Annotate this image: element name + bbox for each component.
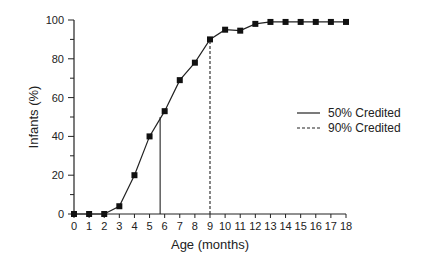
data-point-marker bbox=[298, 19, 304, 25]
y-axis-title: Infants (%) bbox=[26, 86, 41, 149]
x-tick-label: 13 bbox=[264, 220, 276, 232]
x-tick-label: 10 bbox=[219, 220, 231, 232]
y-tick-label: 60 bbox=[52, 92, 64, 104]
legend-solid-label: 50% Credited bbox=[328, 106, 401, 120]
data-point-marker bbox=[283, 19, 289, 25]
x-tick-label: 12 bbox=[249, 220, 261, 232]
data-point-marker bbox=[328, 19, 334, 25]
x-tick-label: 5 bbox=[146, 220, 152, 232]
data-point-marker bbox=[101, 211, 107, 217]
x-tick-label: 3 bbox=[116, 220, 122, 232]
x-tick-label: 8 bbox=[192, 220, 198, 232]
data-point-marker bbox=[147, 133, 153, 139]
data-point-marker bbox=[116, 203, 122, 209]
data-point-marker bbox=[192, 60, 198, 66]
x-tick-label: 14 bbox=[279, 220, 291, 232]
x-tick-label: 4 bbox=[131, 220, 137, 232]
data-point-marker bbox=[86, 211, 92, 217]
x-tick-label: 1 bbox=[86, 220, 92, 232]
x-axis-title: Age (months) bbox=[171, 237, 249, 252]
y-tick-label: 40 bbox=[52, 130, 64, 142]
data-point-marker bbox=[343, 19, 349, 25]
x-tick-label: 15 bbox=[295, 220, 307, 232]
data-point-marker bbox=[267, 19, 273, 25]
x-tick-label: 0 bbox=[71, 220, 77, 232]
y-tick-label: 0 bbox=[58, 208, 64, 220]
data-point-marker bbox=[177, 77, 183, 83]
data-point-marker bbox=[207, 36, 213, 42]
x-tick-label: 17 bbox=[325, 220, 337, 232]
data-point-marker bbox=[131, 172, 137, 178]
x-tick-label: 18 bbox=[340, 220, 352, 232]
data-point-marker bbox=[252, 21, 258, 27]
data-point-marker bbox=[162, 108, 168, 114]
y-tick-label: 100 bbox=[46, 14, 64, 26]
y-tick-label: 20 bbox=[52, 169, 64, 181]
data-point-marker bbox=[237, 28, 243, 34]
data-point-marker bbox=[222, 27, 228, 33]
x-tick-label: 7 bbox=[177, 220, 183, 232]
y-tick-label: 80 bbox=[52, 53, 64, 65]
line-chart: 0204060801000123456789101112131415161718… bbox=[0, 0, 430, 268]
legend: 50% Credited 90% Credited bbox=[297, 106, 401, 135]
x-tick-label: 16 bbox=[310, 220, 322, 232]
x-tick-label: 11 bbox=[235, 220, 246, 232]
x-tick-label: 2 bbox=[101, 220, 107, 232]
x-tick-label: 9 bbox=[207, 220, 213, 232]
data-point-marker bbox=[71, 211, 77, 217]
legend-dashed-label: 90% Credited bbox=[328, 121, 401, 135]
x-tick-label: 6 bbox=[162, 220, 168, 232]
data-point-marker bbox=[313, 19, 319, 25]
